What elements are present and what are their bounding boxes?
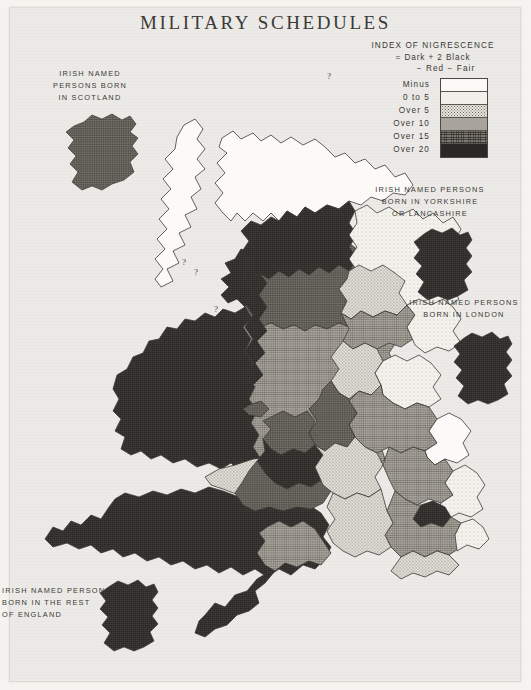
inset-yorkshire-lancashire-label: IRISH NAMED PERSONS BORN IN YORKSHIRE OR… — [348, 184, 512, 220]
legend-swatch-over15 — [441, 131, 487, 144]
legend-label-minus: Minus — [362, 78, 434, 91]
legend-swatch-over10 — [441, 118, 487, 131]
inset-london-line-2: BORN IN LONDON — [398, 309, 530, 321]
annotation-question-mark: ? — [182, 257, 186, 267]
inset-yorks-line-2: BORN IN YORKSHIRE — [348, 196, 512, 208]
inset-london-ireland-shape — [442, 330, 520, 410]
inset-rest-of-england-ireland-shape — [88, 578, 164, 656]
annotation-question-mark: ? — [214, 304, 218, 314]
legend-heading-3: − Red − Fair — [388, 63, 504, 75]
legend-label-over20: Over 20 — [362, 143, 434, 156]
legend-swatch-over5 — [441, 105, 487, 118]
legend-labels: Minus 0 to 5 Over 5 Over 10 Over 15 Over… — [362, 78, 434, 156]
inset-yorks-line-1: IRISH NAMED PERSONS — [348, 184, 512, 196]
legend-swatch-0to5 — [441, 92, 487, 105]
legend-label-over5: Over 5 — [362, 104, 434, 117]
legend-label-over15: Over 15 — [362, 130, 434, 143]
region-wessex — [327, 489, 393, 557]
region-cornwall — [195, 571, 275, 637]
inset-scotland-ireland-shape — [58, 110, 150, 196]
legend-heading-1: INDEX OF NIGRESCENCE — [362, 40, 504, 52]
index-of-nigrescence-legend: INDEX OF NIGRESCENCE = Dark + 2 Black − … — [362, 40, 504, 156]
legend-swatch-minus — [441, 79, 487, 92]
region-outer-hebrides — [155, 119, 205, 287]
screenshot-root: MILITARY SCHEDULES — [0, 0, 531, 690]
legend-swatch-column — [440, 78, 488, 158]
inset-scotland-line-1: IRISH NAMED — [22, 68, 158, 80]
inset-scotland-line-2: PERSONS BORN — [22, 80, 158, 92]
legend-swatch-over20 — [441, 144, 487, 157]
inset-scotland-label: IRISH NAMED PERSONS BORN IN SCOTLAND — [22, 68, 158, 104]
inset-london-label: IRISH NAMED PERSONS BORN IN LONDON — [398, 297, 530, 321]
annotation-question-mark: ? — [194, 267, 198, 277]
inset-yorks-line-3: OR LANCASHIRE — [348, 208, 512, 220]
inset-yorkshire-ireland-shape — [400, 226, 480, 306]
inset-scotland-line-3: IN SCOTLAND — [22, 92, 158, 104]
legend-heading-2: = Dark + 2 Black — [362, 52, 504, 64]
inset-london-line-1: IRISH NAMED PERSONS — [398, 297, 530, 309]
region-connacht — [113, 307, 261, 473]
annotation-question-mark: ? — [327, 71, 331, 81]
legend-label-over10: Over 10 — [362, 117, 434, 130]
legend-label-0to5: 0 to 5 — [362, 91, 434, 104]
